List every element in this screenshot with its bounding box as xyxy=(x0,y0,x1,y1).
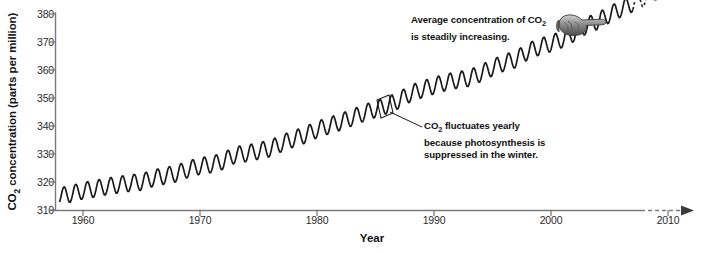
seasonal-annotation-line2: because photosynthesis is xyxy=(424,137,545,148)
seasonal-callout-leader-line xyxy=(390,112,422,127)
co2-projection-line xyxy=(633,0,668,10)
trend-annotation-subscript: 2 xyxy=(542,19,546,28)
trend-annotation: Average concentration of CO2is steadily … xyxy=(411,14,571,43)
seasonal-annotation-line3: suppressed in the winter. xyxy=(424,149,538,160)
seasonal-annotation-line1-suffix: fluctuates yearly xyxy=(442,120,520,131)
seasonal-annotation-line1-prefix: CO xyxy=(424,120,438,131)
seasonal-annotation: CO2 fluctuates yearlybecause photosynthe… xyxy=(424,120,604,162)
co2-concentration-chart: CO2 concentration (parts per million) 38… xyxy=(0,0,702,254)
trend-annotation-line1-prefix: Average concentration of CO xyxy=(411,14,542,25)
x-axis-arrowhead xyxy=(681,206,694,216)
pointing-hand-icon xyxy=(555,10,615,42)
trend-annotation-line2: is steadily increasing. xyxy=(411,31,510,42)
